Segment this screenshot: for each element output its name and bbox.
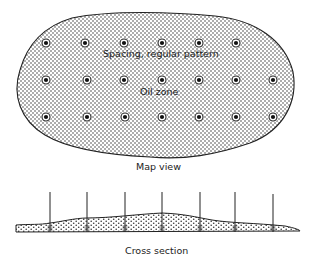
cross-section-reservoir: [16, 213, 300, 232]
well-symbol-icon: [41, 38, 51, 48]
well-symbol-icon: [231, 112, 241, 122]
well-symbol-icon: [268, 112, 278, 122]
well-symbol-icon: [82, 112, 92, 122]
well-symbol-icon: [157, 38, 167, 48]
well-symbol-icon: [194, 38, 204, 48]
well-bore-icon: [85, 192, 90, 232]
diagram-canvas: [0, 0, 315, 267]
caption-map-view: Map view: [136, 161, 181, 172]
well-symbol-icon: [82, 75, 92, 85]
well-symbol-icon: [41, 75, 51, 85]
well-symbol-icon: [157, 112, 167, 122]
well-symbol-icon: [194, 112, 204, 122]
label-spacing-regular-pattern: Spacing, regular pattern: [103, 48, 219, 59]
well-symbol-icon: [231, 38, 241, 48]
well-bore-icon: [48, 192, 53, 232]
well-symbol-icon: [119, 38, 129, 48]
well-symbol-icon: [268, 75, 278, 85]
well-symbol-icon: [231, 75, 241, 85]
well-bore-icon: [233, 192, 238, 232]
label-oil-zone: Oil zone: [140, 86, 178, 97]
well-symbol-icon: [157, 75, 167, 85]
well-bore-icon: [123, 192, 128, 232]
well-symbol-icon: [41, 112, 51, 122]
caption-cross-section: Cross section: [125, 245, 188, 256]
well-bore-icon: [160, 192, 165, 232]
well-symbol-icon: [80, 38, 90, 48]
well-bore-icon: [198, 192, 203, 232]
well-symbol-icon: [119, 75, 129, 85]
well-symbol-icon: [194, 75, 204, 85]
well-bore-icon: [271, 194, 276, 232]
well-symbol-icon: [120, 112, 130, 122]
